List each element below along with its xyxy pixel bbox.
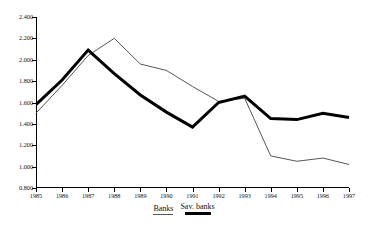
x-axis-tick-label: 1991: [186, 193, 198, 199]
chart-legend: Banks Sav. banks: [0, 203, 368, 215]
legend-row: Banks Sav. banks: [153, 203, 214, 215]
x-axis-tick-label: 1995: [291, 193, 303, 199]
x-axis-tick-label: 1989: [134, 193, 146, 199]
x-axis-tick-label: 1996: [317, 193, 329, 199]
line-chart: 2.4002.2002.0001.8001.6001.4001.2001.000…: [0, 0, 368, 227]
x-axis-tick-label: 1988: [108, 193, 120, 199]
x-axis-tick-label: 1987: [82, 193, 94, 199]
x-axis-tick-label: 1997: [343, 193, 355, 199]
x-axis-tick-label: 1992: [212, 193, 224, 199]
legend-entries: Banks Sav. banks: [153, 203, 214, 215]
thin-line-swatch: [153, 214, 173, 215]
x-axis-tick-label: 1985: [30, 193, 42, 199]
legend-label-banks: Banks: [153, 205, 173, 213]
thick-line-swatch: [185, 212, 211, 215]
x-axis-tick-label: 1994: [265, 193, 277, 199]
legend-label-sav-banks: Sav. banks: [180, 203, 214, 211]
x-axis-tick-label: 1993: [238, 193, 250, 199]
x-axis-tick-label: 1986: [56, 193, 68, 199]
legend-entry-sav-banks[interactable]: Sav. banks: [180, 203, 214, 215]
x-axis-tick-label: 1990: [160, 193, 172, 199]
legend-entry-banks[interactable]: Banks: [153, 205, 173, 215]
